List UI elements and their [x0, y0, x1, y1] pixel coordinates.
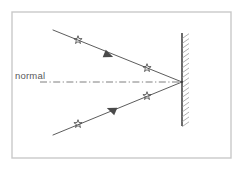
- mirror-hatch-17: [182, 112, 189, 117]
- mirror-hatch-4: [182, 48, 189, 53]
- mirror-hatch-15: [182, 102, 189, 107]
- reflected-ray-line: [53, 82, 182, 135]
- mirror-hatch-19: [182, 122, 189, 127]
- mirror-hatch-7: [182, 63, 189, 68]
- mirror-hatch-8: [182, 68, 189, 73]
- mirror-hatch-13: [182, 92, 189, 97]
- mirror-hatch-16: [182, 107, 189, 112]
- ray-diagram-canvas: normal: [0, 0, 243, 170]
- mirror-hatch-2: [182, 39, 189, 44]
- mirror-hatch-1: [182, 34, 189, 39]
- incident-ray-line: [53, 30, 182, 82]
- mirror-hatch-18: [182, 117, 189, 122]
- mirror-hatch-12: [182, 88, 189, 93]
- point-of-incidence: [181, 81, 183, 83]
- mirror-hatch-10: [182, 78, 189, 83]
- mirror-hatch-9: [182, 73, 189, 78]
- incident-ray-arrowhead: [103, 50, 115, 61]
- mirror-hatch-3: [182, 44, 189, 49]
- incident-ray: [53, 30, 182, 82]
- mirror-hatch-11: [182, 83, 189, 88]
- mirror-hatch-5: [182, 53, 189, 58]
- reflected-ray: [53, 82, 182, 135]
- ray-diagram-figure: normal: [0, 0, 243, 170]
- mirror-hatch-6: [182, 58, 189, 63]
- outer-frame: [12, 12, 231, 158]
- normal-label: normal: [15, 70, 45, 81]
- reflected-ray-star-1: [143, 92, 151, 100]
- incident-ray-star-1: [74, 36, 82, 44]
- mirror-hatch-14: [182, 97, 189, 102]
- reflected-ray-arrowhead: [105, 104, 117, 115]
- mirror: [182, 33, 189, 127]
